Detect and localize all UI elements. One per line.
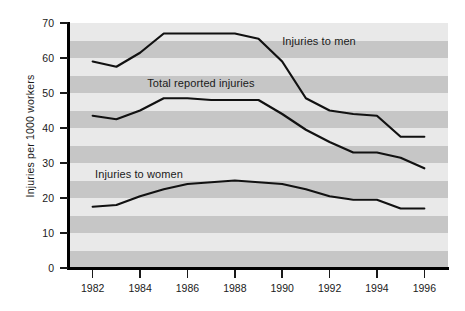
plot-band (69, 198, 448, 216)
y-tick-label: 60 (32, 53, 54, 63)
plot-area (69, 23, 448, 268)
x-tick-mark (329, 270, 331, 278)
x-tick-label: 1984 (120, 282, 160, 294)
x-tick-mark (424, 270, 426, 278)
x-tick-mark (281, 270, 283, 278)
x-tick-mark (92, 270, 94, 278)
x-tick-label: 1982 (73, 282, 113, 294)
plot-band (69, 23, 448, 41)
plot-band (69, 76, 448, 94)
x-tick-label: 1988 (215, 282, 255, 294)
injuries-line-chart: Injuries per 1000 workers 01020304050607… (0, 0, 465, 311)
plot-band (69, 128, 448, 146)
y-tick-label: 10 (32, 228, 54, 238)
x-tick-mark (139, 270, 141, 278)
y-tick-label: 50 (32, 88, 54, 98)
plot-band (69, 233, 448, 251)
series-label: Injuries to men (282, 35, 356, 47)
x-axis-line (67, 267, 449, 270)
plot-band (69, 181, 448, 199)
x-tick-label: 1992 (310, 282, 350, 294)
plot-band (69, 41, 448, 59)
y-tick-label: 30 (32, 158, 54, 168)
series-label: Injuries to women (95, 168, 183, 180)
series-label: Total reported injuries (147, 77, 254, 89)
plot-band (69, 93, 448, 111)
y-axis-title: Injuries per 1000 workers (24, 36, 36, 236)
x-tick-label: 1990 (262, 282, 302, 294)
x-tick-mark (234, 270, 236, 278)
y-tick-label: 40 (32, 123, 54, 133)
plot-band (69, 146, 448, 164)
plot-band (69, 111, 448, 129)
x-tick-mark (376, 270, 378, 278)
x-tick-label: 1986 (167, 282, 207, 294)
plot-band (69, 58, 448, 76)
plot-band (69, 216, 448, 234)
x-tick-label: 1996 (404, 282, 444, 294)
x-tick-label: 1994 (357, 282, 397, 294)
y-tick-label: 70 (32, 18, 54, 28)
y-tick-label: 0 (32, 263, 54, 273)
plot-band (69, 251, 448, 269)
y-tick-label: 20 (32, 193, 54, 203)
x-tick-mark (187, 270, 189, 278)
